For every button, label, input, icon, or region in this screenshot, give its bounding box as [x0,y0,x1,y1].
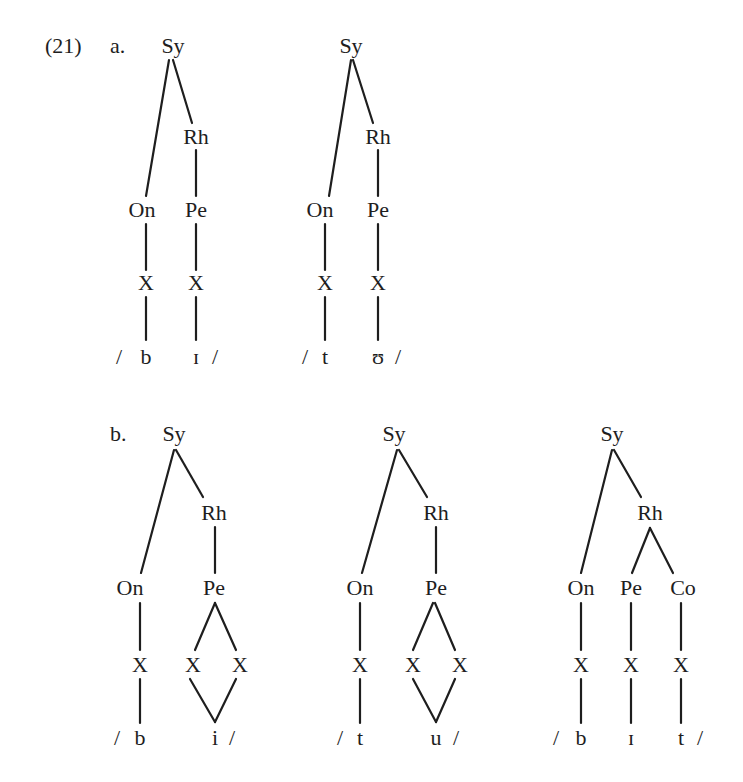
timing-slot: X [185,654,201,676]
branch-line [362,450,397,573]
timing-slot: X [452,654,468,676]
slash-open: / [553,727,559,749]
peak-node: Pe [203,577,225,599]
branch-line [650,528,673,573]
segment-vowel: ɪ [628,727,634,749]
timing-slot: X [132,654,148,676]
onset-node: On [307,199,334,221]
segment-consonant: t [357,727,363,749]
slash-open: / [302,346,308,368]
syllable-structure-diagram: (21) a. b. Sy Rh On Pe X X / b ɪ / Sy Rh… [0,0,743,782]
timing-slot: X [673,654,689,676]
rhyme-node: Rh [423,502,449,524]
timing-slot: X [405,654,421,676]
slash-open: / [114,727,120,749]
timing-slot: X [317,272,333,294]
timing-slot: X [623,654,639,676]
onset-node: On [129,199,156,221]
timing-slot: X [188,272,204,294]
onset-node: On [568,577,595,599]
example-number: (21) [45,35,82,57]
branch-line [195,603,215,650]
peak-node: Pe [425,577,447,599]
segment-final-consonant: t [678,727,684,749]
slash-open: / [116,346,122,368]
branch-line [399,450,427,497]
segment-vowel: ʊ [372,346,384,368]
syllable-node: Sy [339,35,362,57]
segment-consonant: t [322,346,328,368]
syllable-node: Sy [161,35,184,57]
branch-line [215,603,236,650]
timing-slot: X [138,272,154,294]
part-b-label: b. [110,423,127,445]
slash-close: / [212,346,218,368]
timing-slot: X [232,654,248,676]
branch-line [413,679,436,722]
segment-consonant: b [141,346,152,368]
rhyme-node: Rh [201,502,227,524]
branch-line [329,60,351,196]
branch-line [413,603,433,650]
peak-node: Pe [620,577,642,599]
segment-consonant: b [135,727,146,749]
syllable-node: Sy [600,423,623,445]
slash-open: / [337,727,343,749]
slash-close: / [697,727,703,749]
slash-close: / [453,727,459,749]
onset-node: On [117,577,144,599]
segment-vowel: ɪ [193,346,199,368]
peak-node: Pe [185,199,207,221]
syllable-node: Sy [162,423,185,445]
branch-line [436,679,455,722]
timing-slot: X [573,654,589,676]
peak-node: Pe [367,199,389,221]
branch-line [176,450,203,497]
segment-vowel: i [212,727,218,749]
slash-close: / [395,346,401,368]
timing-slot: X [370,272,386,294]
branch-line [190,679,215,722]
segment-consonant: b [576,727,587,749]
rhyme-node: Rh [637,502,663,524]
branch-line [614,450,641,497]
rhyme-node: Rh [183,126,209,148]
branch-line [146,60,169,196]
branch-line [173,60,192,123]
timing-slot: X [352,654,368,676]
branch-line [141,450,174,573]
branch-line [435,603,455,650]
branch-line [215,679,236,722]
coda-node: Co [670,577,696,599]
onset-node: On [347,577,374,599]
branch-line [581,450,612,573]
part-a-label: a. [110,35,125,57]
branch-line [353,60,373,123]
rhyme-node: Rh [365,126,391,148]
slash-close: / [229,727,235,749]
branch-line [632,528,650,573]
syllable-node: Sy [382,423,405,445]
segment-vowel: u [431,727,442,749]
